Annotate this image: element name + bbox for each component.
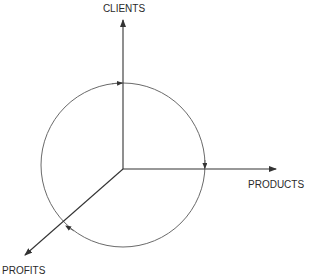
profits-axis — [25, 169, 123, 255]
profits-label: PROFITS — [2, 265, 46, 276]
cycle-diagram: CLIENTS PRODUCTS PROFITS — [0, 0, 313, 279]
products-label: PRODUCTS — [248, 179, 304, 190]
cycle-arrow-top — [112, 83, 122, 84]
clients-label: CLIENTS — [103, 3, 146, 14]
cycle-arrow-bottom-left — [66, 226, 74, 231]
